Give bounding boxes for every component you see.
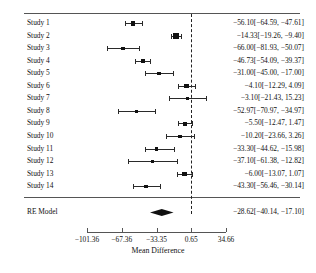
study-row: Study 1−56.10[−64.59, −47.61] (0, 17, 316, 30)
summary-row: RE Model −28.62[−40.14, −17.10] (0, 206, 316, 219)
x-axis-title: Mean Difference (0, 246, 316, 255)
study-estimate-label: −37.10[−61.38, −12.82] (233, 155, 304, 168)
study-row: Study 8−52.97[−70.97, −34.97] (0, 105, 316, 118)
study-label: Study 7 (27, 92, 50, 105)
study-label: Study 2 (27, 30, 50, 43)
top-rule (24, 13, 300, 14)
study-row: Study 14−43.30[−56.46, −30.14] (0, 180, 316, 193)
forest-plot: Study 1−56.10[−64.59, −47.61]Study 2−14.… (0, 0, 316, 273)
confidence-interval-cap (155, 109, 156, 114)
x-axis-tick (122, 228, 123, 232)
estimate-marker (178, 135, 182, 139)
study-row: Study 9−5.50[−12.47, 1.47] (0, 117, 316, 130)
confidence-interval-cap (150, 59, 151, 64)
x-axis-tick-label: −67.36 (111, 235, 132, 244)
confidence-interval-cap (174, 147, 175, 152)
x-axis-tick-label: −33.35 (146, 235, 167, 244)
estimate-marker (141, 59, 146, 64)
study-label: Study 11 (27, 143, 53, 156)
confidence-interval-cap (139, 46, 140, 51)
study-row: Study 7−3.10[−21.43, 15.23] (0, 92, 316, 105)
confidence-interval-cap (206, 96, 207, 101)
confidence-interval-cap (160, 184, 161, 189)
confidence-interval-cap (195, 84, 196, 89)
study-estimate-label: −56.10[−64.59, −47.61] (233, 17, 304, 30)
x-axis-tick (226, 228, 227, 232)
study-row: Study 4−46.73[−54.09, −39.37] (0, 55, 316, 68)
study-label: Study 12 (27, 155, 54, 168)
summary-separator-rule (24, 197, 300, 198)
estimate-marker (183, 122, 188, 127)
confidence-interval-cap (194, 134, 195, 139)
estimate-marker (157, 72, 161, 76)
study-estimate-label: −43.30[−56.46, −30.14] (233, 180, 304, 193)
x-axis-tick (157, 228, 158, 232)
estimate-marker (135, 110, 138, 113)
confidence-interval-cap (145, 71, 146, 76)
study-row: Study 5−31.00[−45.00, −17.00] (0, 67, 316, 80)
study-row: Study 11−33.30[−44.62, −15.98] (0, 143, 316, 156)
study-label: Study 13 (27, 168, 54, 181)
confidence-interval-cap (178, 121, 179, 126)
diamond-shape (150, 208, 174, 215)
x-axis-tick-label: 0.65 (185, 235, 198, 244)
study-estimate-label: −46.73[−54.09, −39.37] (233, 55, 304, 68)
estimate-marker (151, 160, 154, 163)
study-label: Study 3 (27, 42, 50, 55)
study-label: Study 1 (27, 17, 50, 30)
confidence-interval-cap (177, 172, 178, 177)
confidence-interval-cap (178, 84, 179, 89)
study-row: Study 12−37.10[−61.38, −12.82] (0, 155, 316, 168)
study-label: Study 9 (27, 117, 50, 130)
confidence-interval-cap (142, 21, 143, 26)
estimate-marker (182, 172, 187, 177)
study-estimate-label: −5.50[−12.47, 1.47] (245, 117, 304, 130)
confidence-interval-cap (135, 59, 136, 64)
confidence-interval-cap (181, 34, 182, 39)
confidence-interval-cap (171, 34, 172, 39)
study-label: Study 6 (27, 80, 50, 93)
study-row: Study 10−10.20[−23.66, 3.26] (0, 130, 316, 143)
study-label: Study 10 (27, 130, 54, 143)
study-label: Study 14 (27, 180, 54, 193)
summary-diamond (149, 208, 175, 217)
estimate-marker (121, 47, 124, 50)
confidence-interval-cap (169, 96, 170, 101)
confidence-interval-cap (118, 109, 119, 114)
x-axis-line (87, 232, 226, 233)
confidence-interval-cap (125, 21, 126, 26)
study-label: Study 5 (27, 67, 50, 80)
x-axis-tick (191, 228, 192, 232)
study-estimate-label: −3.10[−21.43, 15.23] (241, 92, 304, 105)
study-estimate-label: −52.97[−70.97, −34.97] (233, 105, 304, 118)
summary-label: RE Model (27, 206, 58, 219)
confidence-interval-cap (192, 172, 193, 177)
summary-estimate-label: −28.62[−40.14, −17.10] (233, 206, 304, 219)
study-estimate-label: −14.33[−19.26, −9.40] (237, 30, 304, 43)
confidence-interval-cap (133, 184, 134, 189)
study-row: Study 6−4.10[−12.29, 4.09] (0, 80, 316, 93)
estimate-marker (144, 185, 148, 189)
confidence-interval-cap (177, 159, 178, 164)
estimate-marker (155, 147, 159, 151)
confidence-interval-cap (128, 159, 129, 164)
confidence-interval-cap (145, 147, 146, 152)
x-axis-tick-label: 34.66 (218, 235, 235, 244)
confidence-interval-cap (166, 134, 167, 139)
study-row: Study 2−14.33[−19.26, −9.40] (0, 30, 316, 43)
confidence-interval-line (145, 149, 174, 150)
study-estimate-label: −66.00[−81.93, −50.07] (233, 42, 304, 55)
confidence-interval-cap (107, 46, 108, 51)
confidence-interval-cap (192, 121, 193, 126)
estimate-marker (173, 33, 179, 39)
x-axis-tick (87, 228, 88, 232)
study-estimate-label: −31.00[−45.00, −17.00] (233, 67, 304, 80)
study-estimate-label: −33.30[−44.62, −15.98] (233, 143, 304, 156)
estimate-marker (184, 84, 188, 88)
x-axis-tick-label: −101.36 (75, 235, 100, 244)
confidence-interval-cap (173, 71, 174, 76)
estimate-marker (131, 21, 135, 25)
study-label: Study 8 (27, 105, 50, 118)
study-estimate-label: −6.00[−13.07, 1.07] (245, 168, 304, 181)
estimate-marker (186, 97, 189, 100)
